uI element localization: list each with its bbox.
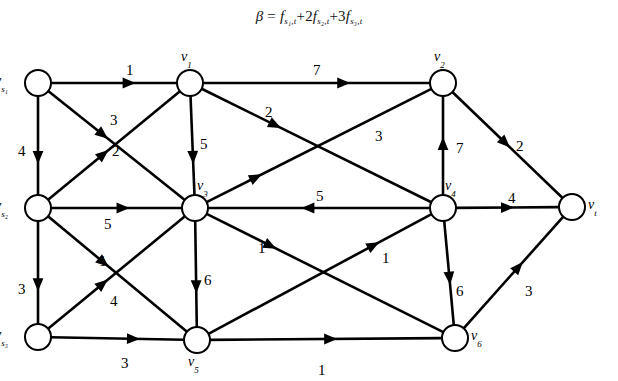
node-label-v4: v4 bbox=[445, 178, 456, 196]
node-v6[interactable] bbox=[442, 325, 468, 351]
node-v5[interactable] bbox=[184, 327, 210, 353]
node-label-v1: v1 bbox=[181, 49, 192, 67]
arrowhead-v3-to-v5 bbox=[191, 280, 202, 293]
edge-v3-to-v5 bbox=[195, 221, 197, 327]
node-label-v3: v3 bbox=[197, 178, 208, 196]
edge-capacity-v4-to-v3: 5 bbox=[316, 188, 324, 205]
edge-capacity-v4-to-v2: 7 bbox=[456, 140, 464, 157]
edge-vs2-to-v5 bbox=[48, 216, 187, 331]
edge-capacity-v5-to-v6: 1 bbox=[318, 362, 326, 379]
node-vs2[interactable] bbox=[25, 195, 51, 221]
arrowhead-vs1-to-vs2 bbox=[33, 151, 44, 164]
network-graph bbox=[0, 0, 618, 381]
edge-capacity-v1-to-v2: 7 bbox=[313, 62, 321, 79]
node-label-vs1: vs₁ bbox=[0, 73, 8, 91]
node-label-v2: v2 bbox=[434, 49, 445, 67]
arrowhead-vs2-to-v3 bbox=[117, 203, 130, 214]
edge-capacity-vs2-to-v5: 1 bbox=[99, 253, 107, 270]
figure-canvas: β = fs₁,t+2fs₂,t+3fs₃,t 1432513437523615… bbox=[0, 0, 618, 381]
edge-capacity-vs2-to-v3: 5 bbox=[104, 216, 112, 233]
arrowhead-v1-to-v3 bbox=[187, 151, 198, 164]
edge-capacity-v1-to-v3: 5 bbox=[200, 136, 208, 153]
node-label-v5: v5 bbox=[188, 354, 199, 372]
edge-capacity-vs1-to-vs2: 4 bbox=[18, 143, 26, 160]
edge-capacity-vs1-to-v3: 3 bbox=[110, 112, 118, 129]
edge-capacity-v3-to-v5: 6 bbox=[204, 272, 212, 289]
edge-capacity-vs1-to-v1: 1 bbox=[126, 62, 134, 79]
arrowhead-v4-to-v2 bbox=[438, 137, 449, 150]
edge-capacity-v4-to-vt: 4 bbox=[508, 190, 516, 207]
edge-v6-to-vt bbox=[464, 217, 564, 329]
node-label-vt: vt bbox=[588, 197, 597, 215]
node-label-vs2: vs₂ bbox=[0, 198, 8, 216]
node-label-vs3: vs₃ bbox=[0, 327, 8, 345]
arrowhead-v5-to-v6 bbox=[324, 334, 337, 345]
node-vs3[interactable] bbox=[25, 324, 51, 350]
edge-capacity-vs3-to-v3: 4 bbox=[110, 293, 118, 310]
edge-capacity-v3-to-v6: 1 bbox=[258, 240, 266, 257]
node-label-v6: v6 bbox=[471, 328, 482, 346]
node-vt[interactable] bbox=[559, 194, 585, 220]
edge-v1-to-v3 bbox=[191, 96, 195, 195]
arrowhead-v1-to-v2 bbox=[337, 78, 350, 89]
arrowhead-v4-to-v3 bbox=[301, 203, 314, 214]
nodes-layer bbox=[25, 70, 585, 353]
arrowhead-vs3-to-v5 bbox=[127, 333, 140, 344]
edge-capacity-v6-to-vt: 3 bbox=[525, 283, 533, 300]
edge-capacity-v4-to-v6: 6 bbox=[456, 283, 464, 300]
edge-capacity-v1-to-v4: 2 bbox=[265, 104, 273, 121]
edge-capacity-vs2-to-vs3: 3 bbox=[18, 281, 26, 298]
node-vs1[interactable] bbox=[25, 70, 51, 96]
edge-vs3-to-v5 bbox=[51, 337, 184, 340]
edge-capacity-vs3-to-v5: 3 bbox=[121, 355, 129, 372]
edge-capacity-vs2-to-v1: 2 bbox=[112, 143, 120, 160]
edge-capacity-v5-to-v4: 1 bbox=[382, 250, 390, 267]
arrowhead-vs1-to-v1 bbox=[123, 78, 136, 89]
edge-capacity-v3-to-v2: 3 bbox=[375, 128, 383, 145]
node-v2[interactable] bbox=[430, 70, 456, 96]
arrowhead-vs2-to-vs3 bbox=[33, 278, 44, 291]
edge-capacity-v2-to-vt: 2 bbox=[516, 138, 524, 155]
node-v1[interactable] bbox=[177, 70, 203, 96]
